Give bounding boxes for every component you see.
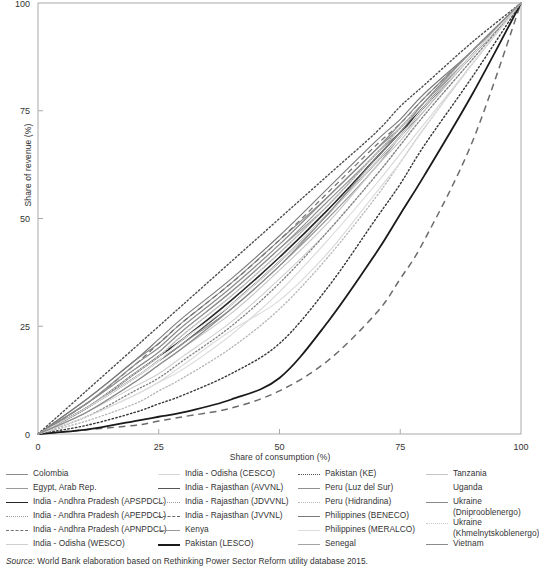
series-line [38, 3, 521, 434]
x-tick-label: 50 [274, 442, 284, 452]
legend-item-label: India - Andhra Pradesh (APNPDCL) [33, 524, 167, 535]
legend-item-label: Pakistan (LESCO) [185, 538, 254, 549]
legend-item-label: India - Rajasthan (JVVNL) [185, 510, 283, 521]
legend-line-swatch [298, 483, 320, 495]
x-tick-label: 0 [35, 442, 40, 452]
legend-column-4: TanzaniaUgandaUkraine(Dniprooblenergo)Uk… [426, 468, 530, 552]
legend-item[interactable]: Peru (Luz del Sur) [298, 482, 426, 496]
legend-line-swatch [6, 511, 28, 523]
legend-line-glyph [6, 488, 28, 489]
legend-item[interactable]: India - Odisha (CESCO) [158, 468, 298, 482]
legend-item[interactable]: Pakistan (LESCO) [158, 538, 298, 552]
series-line [38, 3, 521, 434]
legend-item[interactable]: India - Odisha (WESCO) [6, 538, 158, 552]
legend-line-swatch [298, 511, 320, 523]
legend-line-glyph [426, 544, 448, 545]
legend-line-glyph [6, 516, 28, 517]
legend-line-swatch [158, 525, 180, 537]
legend-line-glyph [158, 488, 180, 489]
legend-line-glyph [158, 474, 180, 475]
legend-line-swatch [158, 483, 180, 495]
legend-column-3: Pakistan (KE)Peru (Luz del Sur)Peru (Hid… [298, 468, 426, 552]
x-axis-title: Share of consumption (%) [38, 452, 522, 462]
legend-item-label: Colombia [33, 468, 68, 479]
legend-item-label: India - Odisha (WESCO) [33, 538, 125, 549]
legend-item-label: India - Rajasthan (AVVNL) [185, 482, 283, 493]
legend-line-glyph [6, 502, 28, 503]
legend-item[interactable]: India - Rajasthan (AVVNL) [158, 482, 298, 496]
legend-line-swatch [298, 525, 320, 537]
legend-item[interactable]: Peru (Hidrandina) [298, 496, 426, 510]
legend-item[interactable]: Philippines (MERALCO) [298, 524, 426, 538]
legend-line-swatch [426, 539, 448, 551]
legend-line-swatch [426, 497, 448, 509]
legend-line-swatch [6, 525, 28, 537]
legend-item-label: Vietnam [453, 538, 484, 549]
source-note: Source: World Bank elaboration based on … [6, 556, 368, 566]
x-tick-label: 100 [513, 442, 528, 452]
legend-line-glyph [158, 516, 180, 517]
legend-item-label: Senegal [325, 538, 356, 549]
series-line [38, 3, 521, 434]
legend-item-label: Egypt, Arab Rep. [33, 482, 97, 493]
series-line [38, 3, 521, 434]
legend-line-swatch [158, 497, 180, 509]
legend-line-swatch [298, 497, 320, 509]
legend-item[interactable]: India - Rajasthan (JVVNL) [158, 510, 298, 524]
legend-line-glyph [298, 516, 320, 517]
legend-line-glyph [6, 474, 28, 475]
legend-item[interactable]: Tanzania [426, 468, 530, 482]
legend-line-glyph [426, 474, 448, 475]
legend-item[interactable]: Vietnam [426, 538, 530, 552]
series-line [38, 3, 521, 434]
legend-item[interactable]: Ukraine(Khmelnytskoblenergo) [426, 517, 530, 538]
series-line [38, 3, 521, 434]
legend-column-1: ColombiaEgypt, Arab Rep.India - Andhra P… [6, 468, 158, 552]
series-line [38, 3, 521, 434]
chart-legend: ColombiaEgypt, Arab Rep.India - Andhra P… [6, 468, 530, 552]
legend-item[interactable]: India - Andhra Pradesh (APSPDCL) [6, 496, 158, 510]
legend-line-swatch [6, 539, 28, 551]
series-group [38, 3, 521, 434]
legend-item-label: Ukraine(Khmelnytskoblenergo) [453, 517, 539, 538]
lorenz-curve-chart: 00252550507575100100 [0, 0, 532, 465]
legend-item[interactable]: Senegal [298, 538, 426, 552]
legend-line-swatch [426, 483, 448, 495]
legend-item[interactable]: Colombia [6, 468, 158, 482]
series-line [38, 3, 521, 434]
legend-line-swatch [158, 511, 180, 523]
legend-item-label: Tanzania [453, 468, 487, 479]
legend-item-label: India - Odisha (CESCO) [185, 468, 275, 479]
legend-item[interactable]: Uganda [426, 482, 530, 496]
legend-line-glyph [6, 544, 28, 545]
series-line [38, 3, 521, 434]
legend-item[interactable]: Ukraine(Dniprooblenergo) [426, 496, 530, 517]
legend-line-swatch [6, 497, 28, 509]
legend-line-glyph [6, 530, 28, 531]
series-line [38, 3, 521, 434]
legend-item[interactable]: Philippines (BENECO) [298, 510, 426, 524]
legend-item[interactable]: India - Andhra Pradesh (APEPDCL) [6, 510, 158, 524]
legend-item-label: Philippines (BENECO) [325, 510, 409, 521]
legend-item[interactable]: Egypt, Arab Rep. [6, 482, 158, 496]
legend-item[interactable]: Kenya [158, 524, 298, 538]
legend-item[interactable]: India - Andhra Pradesh (APNPDCL) [6, 524, 158, 538]
legend-item-label: Philippines (MERALCO) [325, 524, 415, 535]
legend-line-swatch [298, 469, 320, 481]
legend-line-swatch [426, 469, 448, 481]
legend-item-label: Pakistan (KE) [325, 468, 376, 479]
x-tick-label: 25 [154, 442, 164, 452]
series-line [38, 3, 521, 434]
legend-line-swatch [158, 539, 180, 551]
legend-item[interactable]: Pakistan (KE) [298, 468, 426, 482]
series-line [38, 3, 521, 434]
legend-column-2: India - Odisha (CESCO)India - Rajasthan … [158, 468, 298, 552]
series-line [38, 3, 521, 434]
legend-item-label: India - Andhra Pradesh (APEPDCL) [33, 510, 166, 521]
legend-item-label: Ukraine(Dniprooblenergo) [453, 496, 521, 517]
series-line [38, 3, 521, 434]
legend-item[interactable]: India - Rajasthan (JDVVNL) [158, 496, 298, 510]
legend-line-glyph [298, 544, 320, 545]
legend-line-glyph [426, 502, 448, 503]
